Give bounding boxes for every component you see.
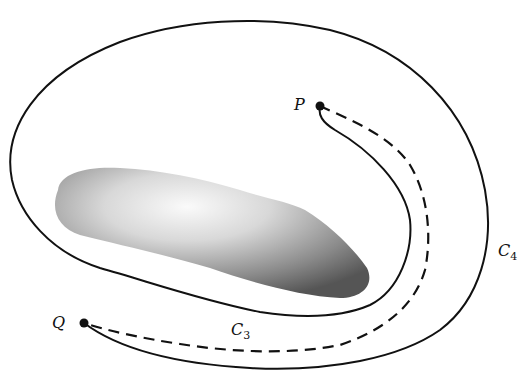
point-p <box>316 102 325 111</box>
label-c3: C3 <box>231 320 250 342</box>
diagram-canvas: P Q C3 C4 <box>0 0 530 377</box>
obstacle-blob <box>55 168 369 298</box>
point-q <box>80 319 89 328</box>
label-p: P <box>293 95 305 114</box>
label-q: Q <box>52 313 65 332</box>
label-c4: C4 <box>498 241 517 263</box>
